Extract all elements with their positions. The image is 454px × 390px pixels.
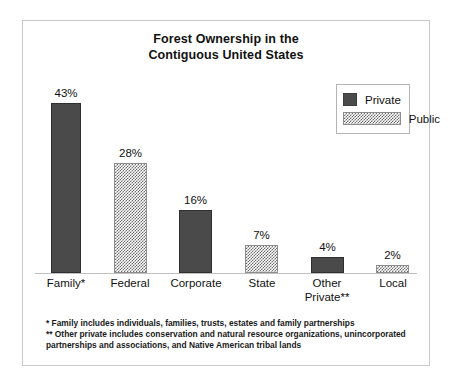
bar-value-corporate: 16% bbox=[184, 194, 207, 206]
bar-group-federal: 28% bbox=[114, 147, 147, 273]
bar-group-corporate: 16% bbox=[179, 194, 212, 273]
bar-state bbox=[245, 245, 278, 273]
x-axis-labels: Family* Federal Corporate State Other Pr… bbox=[31, 276, 421, 310]
bar-value-other-private: 4% bbox=[319, 241, 336, 253]
bar-value-federal: 28% bbox=[119, 147, 142, 159]
x-axis-line bbox=[35, 273, 417, 274]
x-label-local: Local bbox=[363, 276, 423, 290]
chart-title-line-1: Forest Ownership in the bbox=[23, 31, 429, 47]
bar-value-local: 2% bbox=[384, 249, 401, 261]
bar-group-local: 2% bbox=[376, 249, 409, 273]
chart-figure: Forest Ownership in the Contiguous Unite… bbox=[22, 20, 430, 366]
bar-federal bbox=[114, 163, 147, 273]
x-label-family: Family* bbox=[36, 276, 96, 290]
bar-family bbox=[51, 103, 81, 273]
bar-corporate bbox=[179, 210, 212, 273]
footnote-other-private-line-1: ** Other private includes conservation a… bbox=[46, 329, 415, 340]
bar-local bbox=[376, 265, 409, 273]
bar-other-private bbox=[311, 257, 344, 273]
plot-area: 43% 28% 16% 7% 4% 2% bbox=[31, 76, 421, 274]
x-label-federal: Federal bbox=[100, 276, 160, 290]
x-label-state: State bbox=[232, 276, 292, 290]
x-label-other-private-line-1: Other bbox=[313, 277, 342, 289]
bar-value-state: 7% bbox=[253, 229, 270, 241]
chart-title: Forest Ownership in the Contiguous Unite… bbox=[23, 31, 429, 63]
x-label-other-private: Other Private** bbox=[297, 276, 357, 304]
x-label-other-private-line-2: Private** bbox=[305, 291, 350, 303]
bar-value-family: 43% bbox=[54, 87, 77, 99]
bar-group-other-private: 4% bbox=[311, 241, 344, 273]
chart-footnotes: * Family includes individuals, families,… bbox=[46, 318, 415, 352]
x-label-corporate: Corporate bbox=[163, 276, 229, 290]
chart-title-line-2: Contiguous United States bbox=[23, 47, 429, 63]
footnote-family: * Family includes individuals, families,… bbox=[46, 318, 415, 329]
footnote-other-private-line-2: partnerships and associations, and Nativ… bbox=[46, 340, 415, 351]
bar-group-state: 7% bbox=[245, 229, 278, 273]
bar-group-family: 43% bbox=[51, 87, 81, 273]
